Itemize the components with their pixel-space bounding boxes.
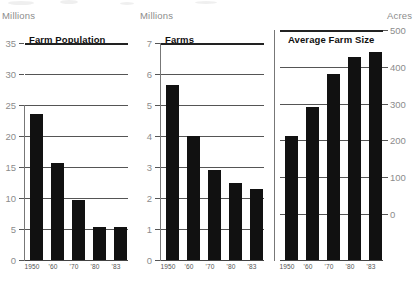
ytick-label-6: 6 [138, 70, 152, 80]
gridline-35 [25, 43, 128, 45]
ytick-300 [383, 104, 388, 105]
ytick-0 [383, 214, 388, 215]
ytick-6 [155, 74, 160, 75]
ytick-1 [155, 229, 160, 230]
bar-83 [369, 52, 382, 260]
ytick-200 [383, 140, 388, 141]
ytick-500 [383, 30, 388, 31]
ytick-label-3: 3 [138, 163, 152, 173]
xtick-label-70: '70 [63, 264, 85, 271]
ytick-400 [383, 67, 388, 68]
ytick-label-20: 20 [0, 132, 16, 142]
xtick-label-80: '80 [339, 264, 361, 271]
gridline-30 [25, 74, 128, 75]
xtick-label-60: '60 [178, 264, 200, 271]
xtick-label-70: '70 [199, 264, 221, 271]
ytick-label-500: 500 [390, 26, 416, 36]
ytick-label-7: 7 [138, 39, 152, 49]
xtick-label-60: '60 [42, 264, 64, 271]
ytick-100 [383, 177, 388, 178]
baseline-axis [280, 260, 383, 261]
bar-60 [51, 163, 64, 260]
ytick-35 [19, 43, 24, 44]
ytick-15 [19, 167, 24, 168]
plot-area-farm-population: 35 30 25 20 15 10 5 0 [25, 43, 128, 260]
bar-60 [187, 136, 200, 260]
ytick-label-25: 25 [0, 101, 16, 111]
bar-80 [348, 57, 361, 261]
ytick-7 [155, 43, 160, 44]
bar-70 [208, 170, 221, 260]
gridline-25 [25, 105, 128, 106]
chart-panel-average-farm-size: Acres Average Farm Size 500 400 300 200 … [272, 0, 416, 282]
ytick-25 [19, 105, 24, 106]
chart-figure: Millions Farm Population 35 [0, 0, 416, 282]
gridline-500 [280, 30, 383, 32]
gridline-6 [161, 74, 264, 75]
ytick-0 [19, 260, 24, 261]
xtick-label-80: '80 [220, 264, 242, 271]
xtick-label-83: '83 [241, 264, 263, 271]
baseline-axis [25, 260, 128, 261]
ytick-label-15: 15 [0, 163, 16, 173]
unit-label-acres: Acres [387, 11, 412, 21]
bar-70 [72, 200, 85, 260]
gridline-400 [280, 67, 383, 68]
ytick-10 [19, 198, 24, 199]
y-axis-line [160, 43, 161, 261]
ytick-label-0: 0 [138, 256, 152, 266]
unit-label-millions: Millions [2, 11, 35, 21]
ytick-label-2: 2 [138, 194, 152, 204]
unit-label-millions: Millions [140, 11, 173, 21]
ytick-label-0: 0 [390, 210, 416, 220]
xtick-label-1950: 1950 [276, 264, 298, 271]
ytick-4 [155, 136, 160, 137]
ytick-5 [155, 105, 160, 106]
ytick-2 [155, 198, 160, 199]
ytick-label-35: 35 [0, 39, 16, 49]
bar-1950 [166, 85, 179, 260]
y-axis-line [24, 105, 25, 261]
ytick-label-0: 0 [0, 256, 16, 266]
ytick-label-400: 400 [390, 63, 416, 73]
y-axis-line [274, 30, 275, 261]
ytick-label-200: 200 [390, 136, 416, 146]
ytick-label-1: 1 [138, 225, 152, 235]
bar-70 [327, 74, 340, 260]
bar-80 [229, 183, 242, 261]
ytick-label-4: 4 [138, 132, 152, 142]
ytick-label-5: 5 [0, 225, 16, 235]
bar-83 [114, 227, 127, 261]
ytick-20 [19, 136, 24, 137]
bar-80 [93, 227, 106, 261]
ytick-label-100: 100 [390, 173, 416, 183]
bar-83 [250, 189, 263, 260]
xtick-label-1950: 1950 [21, 264, 43, 271]
ytick-label-10: 10 [0, 194, 16, 204]
ytick-30 [19, 74, 24, 75]
bar-1950 [30, 114, 43, 260]
ytick-label-300: 300 [390, 100, 416, 110]
xtick-label-70: '70 [318, 264, 340, 271]
plot-area-farms: 7 6 5 4 3 2 1 0 [161, 43, 264, 260]
xtick-label-80: '80 [84, 264, 106, 271]
baseline-axis [161, 260, 264, 261]
chart-panel-farm-population: Millions Farm Population 35 [0, 0, 140, 282]
xtick-label-1950: 1950 [157, 264, 179, 271]
plot-area-average-farm-size: 500 400 300 200 100 0 [280, 30, 383, 260]
ytick-3 [155, 167, 160, 168]
chart-panel-farms: Millions Farms 7 6 5 4 3 2 [138, 0, 268, 282]
bar-60 [306, 107, 319, 260]
ytick-0 [155, 260, 160, 261]
xtick-label-83: '83 [360, 264, 382, 271]
ytick-label-5: 5 [138, 101, 152, 111]
xtick-label-83: '83 [105, 264, 127, 271]
bar-1950 [285, 136, 298, 260]
ytick-label-30: 30 [0, 70, 16, 80]
ytick-5 [19, 229, 24, 230]
gridline-7 [161, 43, 264, 45]
xtick-label-60: '60 [297, 264, 319, 271]
